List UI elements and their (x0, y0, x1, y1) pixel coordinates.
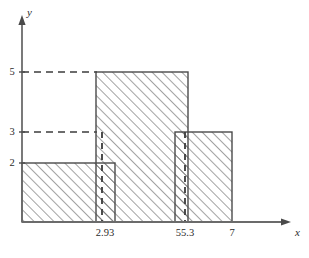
x-tick-label-55-3: 55.3 (165, 228, 205, 239)
y-tick-label-3: 3 (6, 127, 18, 138)
bar-middle (96, 72, 188, 222)
bar-right (175, 132, 232, 222)
y-axis-label: y (27, 7, 32, 18)
y-tick-label-5: 5 (6, 67, 18, 78)
x-axis-label: x (295, 227, 300, 238)
x-tick-label-2-93: 2.93 (85, 228, 125, 239)
step-function-bar-chart (0, 0, 309, 258)
y-tick-label-2: 2 (6, 158, 18, 169)
x-tick-label-7: 7 (222, 228, 242, 239)
